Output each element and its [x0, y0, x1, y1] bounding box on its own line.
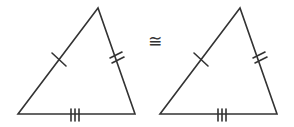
double-tick-mark — [253, 52, 265, 58]
single-tick-mark — [194, 53, 208, 66]
left-triangle — [18, 8, 135, 121]
congruent-triangles-diagram: ≅ — [0, 0, 294, 127]
right-triangle — [160, 8, 277, 121]
single-tick-mark — [52, 53, 66, 66]
double-tick-mark — [110, 52, 122, 58]
triangles-svg — [0, 0, 294, 127]
congruent-symbol: ≅ — [148, 33, 162, 50]
